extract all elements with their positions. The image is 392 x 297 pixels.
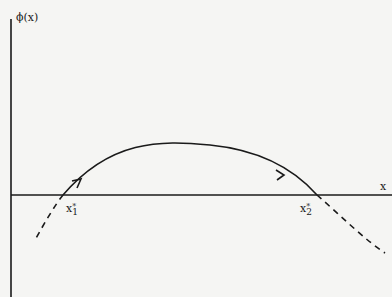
- x-axis-label: x: [380, 181, 386, 192]
- arrow-right-icon: [276, 170, 284, 180]
- phase-diagram: ϕ(x) x x*1 x*2: [0, 0, 392, 297]
- dashed-curve-left: [35, 195, 63, 240]
- solid-curve: [63, 143, 317, 195]
- root-label-x2: x*2: [300, 203, 312, 214]
- root-label-x1: x*1: [66, 203, 78, 214]
- y-axis-label: ϕ(x): [16, 12, 38, 23]
- diagram-svg: [0, 0, 392, 297]
- dashed-curve-right: [317, 195, 385, 253]
